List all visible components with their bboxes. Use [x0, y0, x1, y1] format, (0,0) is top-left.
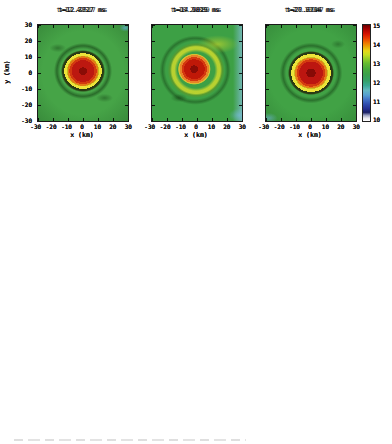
x-tick-label: -20 — [157, 123, 172, 130]
y-tick-label: 10 — [25, 53, 32, 60]
x-axis-label: x (km) — [151, 131, 241, 139]
x-tick-label: 0 — [74, 123, 89, 130]
x-tick-label: -20 — [43, 123, 58, 130]
x-tick-label: 20 — [219, 123, 234, 130]
x-tick-label: 20 — [105, 123, 120, 130]
x-tick-label: 10 — [90, 123, 105, 130]
x-axis-tick-labels: -30-20-100102030 — [28, 123, 136, 130]
y-tick-label: -10 — [21, 85, 32, 92]
colorbar-tick-label: 11 — [373, 97, 380, 104]
panel-title: t=12.7727 ms — [25, 6, 139, 14]
panel-title: t=14.9015 ms — [139, 6, 253, 14]
heatmap-panel-r3c2: t=14.9015 ms -30-20-100102030 x (km) — [151, 0, 241, 148]
x-axis-label: x (km) — [265, 131, 355, 139]
x-axis-tick-labels: -30-20-100102030 — [142, 123, 250, 130]
x-axis-label: x (km) — [37, 131, 127, 139]
panel-title: t=20.6796 ms — [253, 6, 367, 14]
density-map-image — [265, 24, 357, 122]
x-tick-label: 10 — [318, 123, 333, 130]
y-axis-tick-labels: 3020100-10-20-30 — [15, 24, 34, 120]
figure-row-3: y (km) 3020100-10-20-30 t=12.7727 ms -30… — [0, 0, 392, 148]
y-tick-label: -20 — [21, 101, 32, 108]
x-tick-label: 30 — [121, 123, 136, 130]
x-tick-label: -30 — [142, 123, 157, 130]
heatmap-panel-r3c1: t=12.7727 ms -30-20-100102030 x (km) — [37, 0, 127, 148]
x-tick-label: 10 — [204, 123, 219, 130]
density-map-image — [151, 24, 243, 122]
colorbar-tick-label: 15 — [373, 22, 380, 29]
plot-ticks — [152, 25, 242, 121]
colorbar-tick-label: 14 — [373, 40, 380, 47]
colorbar — [362, 24, 371, 122]
colorbar-tick-label: 13 — [373, 59, 380, 66]
x-tick-label: 30 — [349, 123, 364, 130]
figure-canvas: y (km) 3020100-10-20-30 t=12.42517 ms -3… — [0, 0, 392, 444]
x-tick-label: -10 — [173, 123, 188, 130]
x-tick-label: -30 — [256, 123, 271, 130]
y-tick-label: 0 — [28, 69, 32, 76]
colorbar-tick-label: 10 — [373, 116, 380, 123]
x-tick-label: -30 — [28, 123, 43, 130]
x-tick-label: 20 — [333, 123, 348, 130]
x-axis-tick-labels: -30-20-100102030 — [256, 123, 364, 130]
y-tick-label: 30 — [25, 21, 32, 28]
x-tick-label: -10 — [59, 123, 74, 130]
x-tick-label: 0 — [302, 123, 317, 130]
colorbar-tick-labels: 151413121110 — [373, 24, 391, 120]
plot-ticks — [266, 25, 356, 121]
heatmap-panel-r3c3: t=20.6796 ms -30-20-100102030 x (km) — [265, 0, 355, 148]
plot-ticks — [38, 25, 128, 121]
colorbar-tick-label: 12 — [373, 78, 380, 85]
y-tick-label: 20 — [25, 37, 32, 44]
y-axis-label: y (km) — [3, 24, 11, 120]
x-tick-label: 30 — [235, 123, 250, 130]
density-map-image — [37, 24, 129, 122]
x-tick-label: 0 — [188, 123, 203, 130]
x-tick-label: -20 — [271, 123, 286, 130]
x-tick-label: -10 — [287, 123, 302, 130]
cropped-caption-line — [14, 439, 246, 441]
